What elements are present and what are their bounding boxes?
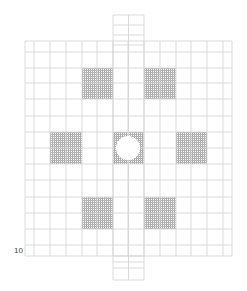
- grid-diagram: [0, 0, 247, 291]
- center-circle: [116, 136, 140, 160]
- shaded-block-top-left: [82, 68, 113, 99]
- corner-label: 10: [14, 246, 23, 255]
